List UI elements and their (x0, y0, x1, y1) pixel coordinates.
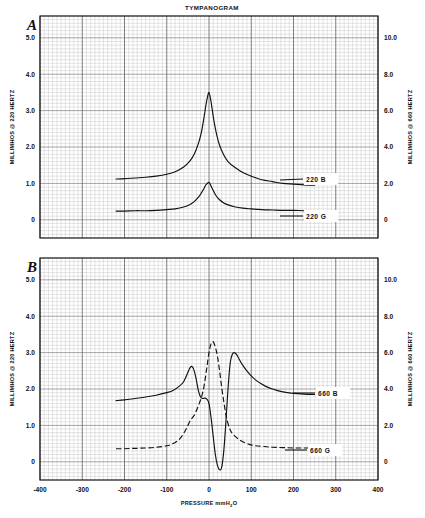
panel-a-right-ticks: 10.08.06.04.02.00 (384, 34, 397, 223)
panel-a-right-axis-label: MILLIMHOS @ 660 HERTZ (407, 89, 413, 164)
panel-b-left-axis-label: MILLIMHOS @ 220 HERTZ (9, 331, 15, 406)
panel-b-left-tick: 1.0 (26, 422, 35, 429)
curve-label-220-g: 220 G (280, 210, 338, 222)
panel-b-right-tick: 4.0 (384, 385, 393, 392)
tympanogram-figure: TYMPANOGRAM A 5.04.03.02.01.00 10.08.06.… (0, 0, 425, 518)
panel-b-left-ticks: 5.04.03.02.01.00 (26, 276, 36, 465)
curve-label-660-g-text: 660 G (310, 447, 330, 454)
panel-a-left-tick: 0 (31, 216, 35, 223)
x-tick-label: 200 (288, 486, 299, 493)
panel-a-left-tick: 4.0 (26, 71, 35, 78)
panel-b-right-tick: 0 (384, 458, 388, 465)
panel-a-right-tick: 4.0 (384, 143, 393, 150)
panel-a-left-tick: 2.0 (26, 143, 35, 150)
curve-label-220-b-text: 220 B (306, 176, 326, 183)
x-tick-label: -300 (76, 486, 90, 493)
x-tick-label: 300 (330, 486, 341, 493)
panel-a-right-tick: 10.0 (384, 34, 397, 41)
panel-a-letter: A (26, 17, 37, 33)
panel-a-right-tick: 2.0 (384, 180, 393, 187)
curve-660-b (116, 353, 315, 470)
x-tick-label: -200 (118, 486, 132, 493)
panel-b-right-tick: 6.0 (384, 349, 393, 356)
panel-b-letter: B (26, 259, 37, 275)
panel-b-right-ticks: 10.08.06.04.02.00 (384, 276, 397, 465)
panel-a-left-ticks: 5.04.03.02.01.00 (26, 34, 36, 223)
panel-b-left-tick: 5.0 (26, 276, 35, 283)
panel-a-right-tick: 8.0 (384, 71, 393, 78)
x-axis-ticks: -400-300-200-1000100200300400 (33, 486, 383, 493)
panel-b-left-tick: 4.0 (26, 313, 35, 320)
panel-b-left-tick: 0 (31, 458, 35, 465)
panel-b-left-tick: 3.0 (26, 349, 35, 356)
x-tick-label: -100 (160, 486, 174, 493)
panel-a: A 5.04.03.02.01.00 10.08.06.04.02.00 MIL… (9, 16, 413, 238)
panel-a-left-tick: 3.0 (26, 107, 35, 114)
panel-a-left-tick: 5.0 (26, 34, 35, 41)
x-axis-label: PRESSURE mmH2O (181, 500, 238, 508)
panel-b-right-tick: 2.0 (384, 422, 393, 429)
panel-b-left-tick: 2.0 (26, 385, 35, 392)
panel-b: B 5.04.03.02.01.00 10.08.06.04.02.00 MIL… (9, 258, 413, 508)
curve-label-660-b-text: 660 B (318, 390, 338, 397)
x-tick-label: 0 (207, 486, 211, 493)
panel-b-right-axis-label: MILLIMHOS @ 660 HERTZ (407, 331, 413, 406)
x-tick-label: 100 (246, 486, 257, 493)
curve-220-b (116, 92, 315, 185)
curve-label-220-g-text: 220 G (306, 213, 326, 220)
panel-a-left-tick: 1.0 (26, 180, 35, 187)
panel-a-right-tick: 6.0 (384, 107, 393, 114)
panel-b-right-tick: 10.0 (384, 276, 397, 283)
panel-a-left-axis-label: MILLIMHOS @ 220 HERTZ (9, 89, 15, 164)
panel-a-right-tick: 0 (384, 216, 388, 223)
panel-b-right-tick: 8.0 (384, 313, 393, 320)
x-tick-label: 400 (372, 486, 383, 493)
figure-title: TYMPANOGRAM (185, 4, 239, 11)
x-tick-label: -400 (33, 486, 47, 493)
curve-220-g (116, 182, 315, 211)
